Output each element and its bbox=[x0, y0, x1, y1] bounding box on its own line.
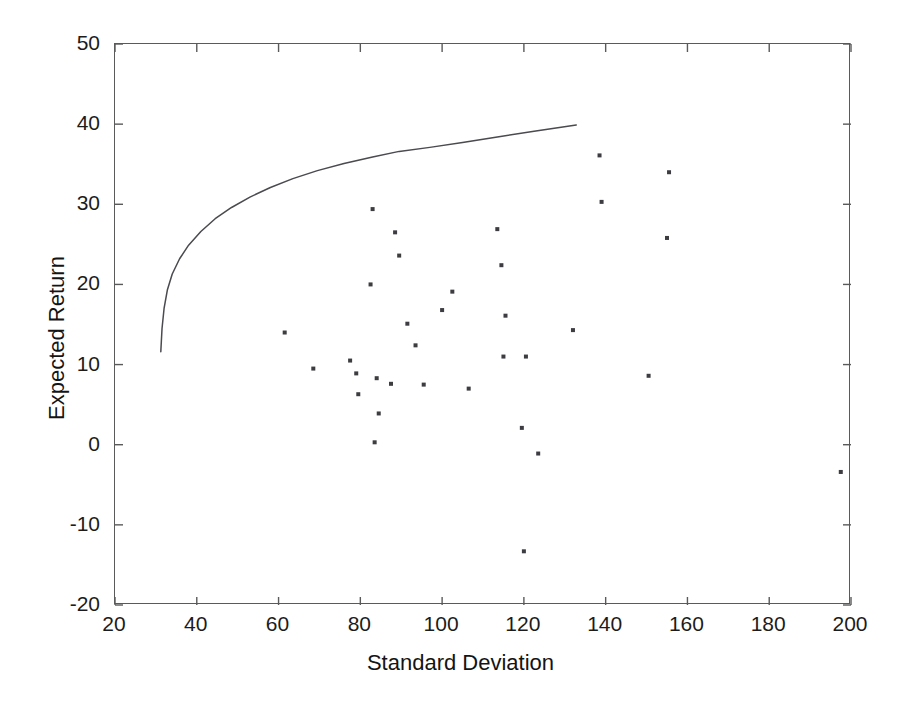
scatter-point bbox=[600, 200, 604, 204]
x-tick-label: 20 bbox=[102, 612, 125, 636]
scatter-point bbox=[571, 328, 575, 332]
scatter-points-group bbox=[283, 153, 843, 553]
x-tick-label: 160 bbox=[669, 612, 704, 636]
scatter-point bbox=[536, 452, 540, 456]
x-tick-label: 40 bbox=[184, 612, 207, 636]
x-axis-title: Standard Deviation bbox=[0, 650, 921, 676]
scatter-point bbox=[348, 359, 352, 363]
scatter-point bbox=[356, 392, 360, 396]
x-tick-label: 200 bbox=[832, 612, 867, 636]
x-tick-label: 140 bbox=[587, 612, 622, 636]
scatter-point bbox=[389, 382, 393, 386]
x-tick-label: 60 bbox=[266, 612, 289, 636]
frontier-polyline bbox=[161, 125, 576, 352]
scatter-point bbox=[839, 470, 843, 474]
scatter-point bbox=[520, 426, 524, 430]
scatter-point bbox=[397, 254, 401, 258]
scatter-point bbox=[377, 411, 381, 415]
y-tick-label: 40 bbox=[14, 111, 100, 135]
scatter-point bbox=[667, 170, 671, 174]
tick-marks-group bbox=[115, 44, 851, 605]
scatter-point bbox=[467, 387, 471, 391]
y-tick-label: 50 bbox=[14, 31, 100, 55]
scatter-chart-figure: 20406080100120140160180200 -20-100102030… bbox=[0, 0, 921, 701]
scatter-point bbox=[354, 371, 358, 375]
y-tick-label: -10 bbox=[14, 512, 100, 536]
y-tick-label: 0 bbox=[14, 432, 100, 456]
scatter-point bbox=[283, 331, 287, 335]
x-tick-label: 80 bbox=[348, 612, 371, 636]
y-axis-title: Expected Return bbox=[44, 256, 70, 420]
scatter-point bbox=[369, 282, 373, 286]
x-tick-label: 180 bbox=[751, 612, 786, 636]
y-tick-label: -20 bbox=[14, 592, 100, 616]
scatter-point bbox=[647, 374, 651, 378]
scatter-point bbox=[371, 207, 375, 211]
scatter-point bbox=[503, 314, 507, 318]
scatter-point bbox=[450, 290, 454, 294]
efficient-frontier-line bbox=[161, 125, 576, 352]
y-tick-label: 30 bbox=[14, 191, 100, 215]
scatter-point bbox=[440, 308, 444, 312]
plot-svg bbox=[115, 44, 851, 605]
scatter-point bbox=[375, 376, 379, 380]
x-tick-label: 100 bbox=[424, 612, 459, 636]
scatter-point bbox=[665, 236, 669, 240]
scatter-point bbox=[501, 355, 505, 359]
scatter-point bbox=[495, 227, 499, 231]
x-tick-label: 120 bbox=[505, 612, 540, 636]
scatter-point bbox=[524, 355, 528, 359]
scatter-point bbox=[393, 230, 397, 234]
scatter-point bbox=[373, 440, 377, 444]
scatter-point bbox=[598, 153, 602, 157]
scatter-point bbox=[311, 367, 315, 371]
scatter-point bbox=[405, 322, 409, 326]
scatter-point bbox=[522, 549, 526, 553]
plot-area bbox=[114, 43, 850, 604]
scatter-point bbox=[499, 263, 503, 267]
scatter-point bbox=[422, 383, 426, 387]
scatter-point bbox=[414, 343, 418, 347]
